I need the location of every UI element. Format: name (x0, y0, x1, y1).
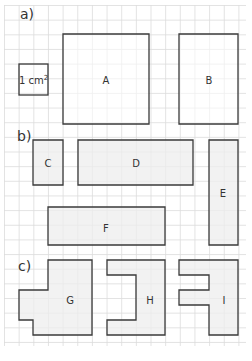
shape-label-b: B (206, 75, 213, 86)
unit-text: 1 cm (19, 75, 44, 86)
shape-label-h: H (146, 295, 154, 306)
shape-label-d: D (132, 158, 140, 169)
shape-label-c: C (45, 158, 52, 169)
shape-label-i: I (223, 295, 226, 306)
section-label-b: b) (17, 128, 31, 144)
section-label-c: c) (18, 258, 31, 274)
shape-h (107, 260, 165, 335)
shape-label-e: E (220, 188, 226, 199)
section-label-a: a) (20, 6, 34, 22)
shape-label-g: G (66, 295, 74, 306)
shape-i (179, 260, 238, 335)
unit-square-label: 1 cm2 (19, 73, 48, 85)
shape-label-f: F (103, 223, 109, 234)
area-diagram-canvas (0, 0, 252, 361)
shape-label-a: A (103, 75, 110, 86)
unit-superscript: 2 (44, 73, 48, 81)
